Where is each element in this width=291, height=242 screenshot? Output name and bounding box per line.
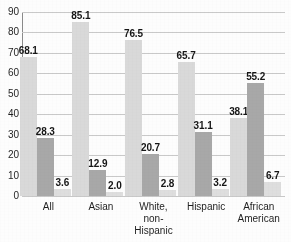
bar: [89, 170, 106, 196]
bar: [178, 62, 195, 196]
y-axis-tick-label: 40: [0, 109, 19, 119]
bar: [54, 189, 71, 196]
bar-value-label: 2.8: [161, 179, 175, 189]
bar: [142, 154, 159, 196]
y-axis-tick-label: 10: [0, 171, 19, 181]
y-axis-tick-label: 70: [0, 48, 19, 58]
x-axis-category-label: All: [22, 201, 75, 213]
bar: [20, 57, 37, 196]
x-axis-category-label: Asian: [75, 201, 128, 213]
bar-group: 76.520.72.8: [127, 12, 180, 196]
bar-value-label: 31.1: [194, 121, 213, 131]
x-axis-category-label: White, non-Hispanic: [127, 201, 180, 237]
bar: [106, 192, 123, 196]
x-axis-category-label: African American: [232, 201, 285, 225]
bar: [159, 190, 176, 196]
bar-group: 85.112.92.0: [75, 12, 128, 196]
bar: [37, 138, 54, 196]
bar: [212, 189, 229, 196]
bar-group: 68.128.33.6: [22, 12, 75, 196]
bar-value-label: 12.9: [88, 159, 107, 169]
bar-value-label: 6.7: [266, 171, 280, 181]
bar-value-label: 65.7: [177, 51, 196, 61]
bar: [264, 182, 281, 196]
y-axis-tick-label: 0: [0, 191, 19, 201]
bar-value-label: 76.5: [124, 29, 143, 39]
y-axis-tick-label: 20: [0, 150, 19, 160]
bar-group: 65.731.13.2: [180, 12, 233, 196]
plot-area: 68.128.33.685.112.92.076.520.72.865.731.…: [22, 12, 285, 196]
bar-value-label: 68.1: [19, 46, 38, 56]
bar-group: 38.155.26.7: [232, 12, 285, 196]
bar: [230, 118, 247, 196]
bar-value-label: 28.3: [36, 127, 55, 137]
x-axis-category-label: Hispanic: [180, 201, 233, 213]
y-axis-tick-label: 80: [0, 27, 19, 37]
y-axis-tick-label: 90: [0, 7, 19, 17]
bar-value-label: 20.7: [141, 143, 160, 153]
bar-value-label: 3.6: [55, 178, 69, 188]
bar: [72, 22, 89, 196]
bar: [195, 132, 212, 196]
bar-value-label: 3.2: [213, 178, 227, 188]
bar-value-label: 55.2: [246, 72, 265, 82]
y-axis-tick-label: 30: [0, 130, 19, 140]
bar-value-label: 38.1: [229, 107, 248, 117]
bar-chart: 68.128.33.685.112.92.076.520.72.865.731.…: [0, 0, 291, 242]
bar-value-label: 2.0: [108, 181, 122, 191]
bar-value-label: 85.1: [71, 11, 90, 21]
bar: [247, 83, 264, 196]
gridline: [22, 196, 285, 197]
y-axis-tick-label: 50: [0, 89, 19, 99]
bar: [125, 40, 142, 196]
y-axis-tick-label: 60: [0, 68, 19, 78]
